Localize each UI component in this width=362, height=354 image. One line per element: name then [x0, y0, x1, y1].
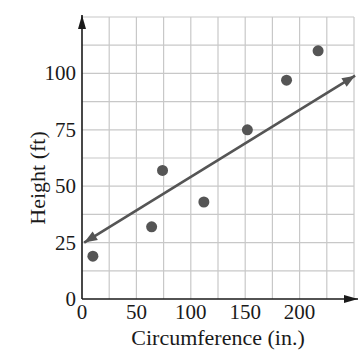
scatter-chart: 0255075100 050100150200 Circumference (i… [0, 0, 362, 354]
x-tick-label: 0 [77, 300, 88, 324]
grid [82, 17, 354, 299]
data-point [157, 165, 168, 176]
x-axis-label: Circumference (in.) [131, 325, 304, 350]
x-axis-arrow-icon [344, 295, 358, 303]
data-point [87, 251, 98, 262]
x-tick-labels: 050100150200 [77, 300, 316, 324]
y-tick-label: 100 [45, 61, 77, 85]
data-point [313, 45, 324, 56]
x-tick-label: 50 [126, 300, 147, 324]
y-tick-label: 25 [55, 231, 76, 255]
data-point [242, 124, 253, 135]
data-point [281, 75, 292, 86]
y-tick-label: 50 [55, 174, 76, 198]
data-point [146, 221, 157, 232]
x-tick-label: 100 [175, 300, 207, 324]
data-point [198, 196, 209, 207]
line-of-fit [84, 76, 355, 243]
y-tick-label: 0 [66, 287, 77, 311]
fit-line [84, 76, 355, 243]
data-points [87, 45, 323, 261]
arrowhead-left-icon [84, 232, 98, 243]
y-tick-label: 75 [55, 118, 76, 142]
x-tick-label: 150 [229, 300, 261, 324]
arrowhead-right-icon [341, 76, 355, 87]
x-tick-label: 200 [284, 300, 316, 324]
y-axis-label: Height (ft) [25, 131, 50, 224]
